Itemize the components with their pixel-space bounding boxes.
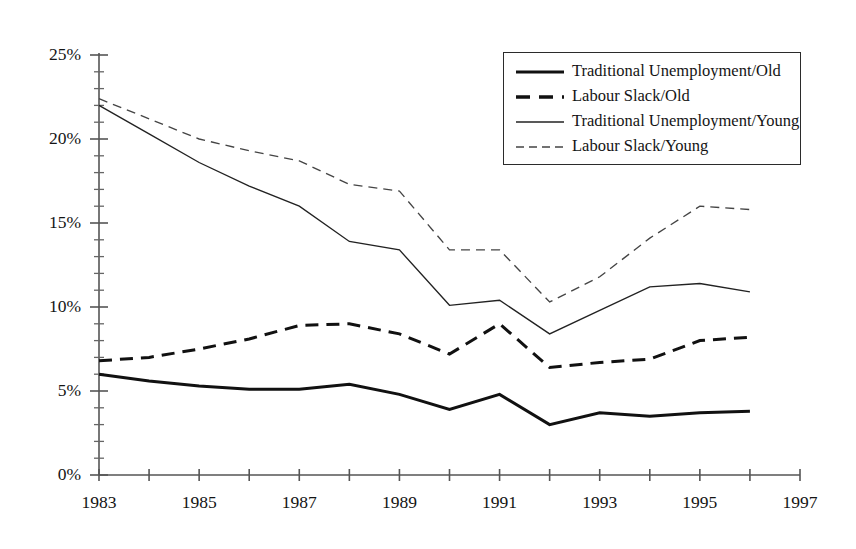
y-axis: 0%5%10%15%20%25%	[49, 44, 108, 484]
legend-label: Traditional Unemployment/Young	[572, 113, 799, 130]
y-tick-label: 5%	[58, 380, 81, 400]
y-tick-label: 10%	[49, 296, 81, 316]
x-tick-label: 1983	[82, 492, 117, 512]
series-line	[99, 324, 750, 368]
y-tick-label: 25%	[49, 44, 81, 64]
x-tick-label: 1989	[382, 492, 417, 512]
x-tick-label: 1985	[182, 492, 217, 512]
y-tick-label: 15%	[49, 212, 81, 232]
x-tick-label: 1997	[783, 492, 818, 512]
legend-line-icon	[514, 140, 566, 154]
legend-line-icon	[514, 115, 566, 129]
y-tick-label: 20%	[49, 128, 81, 148]
legend-label: Labour Slack/Old	[572, 88, 690, 105]
legend-label: Labour Slack/Young	[572, 138, 708, 155]
legend-item[interactable]: Labour Slack/Old	[514, 84, 792, 109]
series-line	[99, 374, 750, 424]
legend-line-icon	[514, 65, 566, 79]
chart-container: 0%5%10%15%20%25% 19831985198719891991199…	[0, 0, 856, 549]
x-tick-label: 1991	[482, 492, 517, 512]
x-axis: 19831985198719891991199319951997	[82, 469, 818, 512]
legend-item[interactable]: Labour Slack/Young	[514, 134, 792, 159]
legend-line-icon	[514, 90, 566, 104]
x-tick-label: 1987	[282, 492, 317, 512]
y-tick-label: 0%	[58, 464, 81, 484]
x-tick-label: 1993	[582, 492, 617, 512]
legend-item[interactable]: Traditional Unemployment/Old	[514, 59, 792, 84]
chart-legend: Traditional Unemployment/OldLabour Slack…	[503, 52, 801, 165]
legend-item[interactable]: Traditional Unemployment/Young	[514, 109, 792, 134]
legend-label: Traditional Unemployment/Old	[572, 63, 781, 80]
x-tick-label: 1995	[682, 492, 717, 512]
